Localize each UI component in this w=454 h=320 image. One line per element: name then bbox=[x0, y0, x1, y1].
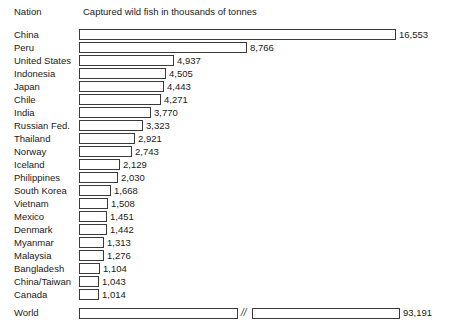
chart-header: Nation Captured wild fish in thousands o… bbox=[0, 6, 454, 22]
bar-row: United States4,937 bbox=[0, 54, 454, 67]
bar-label: Thailand bbox=[14, 132, 50, 145]
bar-row-world: World // 93,191 bbox=[0, 305, 454, 320]
bar-row: Malaysia1,276 bbox=[0, 249, 454, 262]
bar-label: Canada bbox=[14, 288, 47, 301]
bar-label: China bbox=[14, 28, 39, 41]
bar-label: Japan bbox=[14, 80, 40, 93]
bar-row: Iceland2,129 bbox=[0, 158, 454, 171]
bar bbox=[79, 120, 143, 131]
chart-plot-area: China16,553Peru8,766United States4,937In… bbox=[0, 28, 454, 320]
bar-label: South Korea bbox=[14, 184, 67, 197]
bar bbox=[79, 198, 108, 209]
bar-value: 16,553 bbox=[399, 28, 428, 41]
bar-label: Iceland bbox=[14, 158, 45, 171]
bar-value: 4,443 bbox=[167, 80, 191, 93]
bar-label: Peru bbox=[14, 41, 34, 54]
bar-label: Philippines bbox=[14, 171, 60, 184]
bar-row: China/Taiwan1,043 bbox=[0, 275, 454, 288]
bar-label: Russian Fed. bbox=[14, 119, 70, 132]
bar-world-segment-left bbox=[79, 308, 238, 319]
bar-label: Indonesia bbox=[14, 67, 55, 80]
bar-world-segment-right bbox=[252, 308, 400, 319]
bar-value: 3,770 bbox=[154, 106, 178, 119]
bar-value: 2,921 bbox=[138, 132, 162, 145]
bar-row: Philippines2,030 bbox=[0, 171, 454, 184]
bar-row: Indonesia4,505 bbox=[0, 67, 454, 80]
bar-label: China/Taiwan bbox=[14, 275, 71, 288]
bar-label: Bangladesh bbox=[14, 262, 64, 275]
bar bbox=[79, 276, 99, 287]
bar bbox=[79, 263, 100, 274]
bar bbox=[79, 172, 118, 183]
bar-row: Myanmar1,313 bbox=[0, 236, 454, 249]
bar-label: Myanmar bbox=[14, 236, 54, 249]
bar-row: Japan4,443 bbox=[0, 80, 454, 93]
bar-value: 4,271 bbox=[164, 93, 188, 106]
bar bbox=[79, 185, 111, 196]
bar-value-world: 93,191 bbox=[403, 306, 432, 319]
bar-value: 1,043 bbox=[102, 275, 126, 288]
bar-row: Bangladesh1,104 bbox=[0, 262, 454, 275]
bar-label: India bbox=[14, 106, 35, 119]
bar bbox=[79, 289, 99, 300]
bar-value: 8,766 bbox=[250, 41, 274, 54]
column-header-nation: Nation bbox=[14, 6, 41, 18]
bar-row: India3,770 bbox=[0, 106, 454, 119]
bar-row: Vietnam1,508 bbox=[0, 197, 454, 210]
bar-value: 4,505 bbox=[169, 67, 193, 80]
bar-row: Peru8,766 bbox=[0, 41, 454, 54]
bar-row: Norway2,743 bbox=[0, 145, 454, 158]
bar bbox=[79, 159, 120, 170]
bar-label: Norway bbox=[14, 145, 46, 158]
bar-row: China16,553 bbox=[0, 28, 454, 41]
bar-label: United States bbox=[14, 54, 71, 67]
bar bbox=[79, 224, 107, 235]
bar-label: Mexico bbox=[14, 210, 44, 223]
bar-value: 1,313 bbox=[107, 236, 131, 249]
axis-break-icon: // bbox=[240, 305, 248, 320]
bar-value: 1,104 bbox=[103, 262, 127, 275]
chart-title: Captured wild fish in thousands of tonne… bbox=[83, 6, 257, 18]
bar bbox=[79, 29, 396, 40]
bar bbox=[79, 55, 174, 66]
bar-value: 3,323 bbox=[146, 119, 170, 132]
bar-row: Canada1,014 bbox=[0, 288, 454, 301]
bar bbox=[79, 250, 104, 261]
bar bbox=[79, 133, 135, 144]
bar bbox=[79, 68, 166, 79]
bar-label: Malaysia bbox=[14, 249, 52, 262]
bar-row: Denmark1,442 bbox=[0, 223, 454, 236]
bar bbox=[79, 94, 161, 105]
bar-row: Mexico1,451 bbox=[0, 210, 454, 223]
bar-value: 1,451 bbox=[110, 210, 134, 223]
bar bbox=[79, 81, 164, 92]
bar-label: Denmark bbox=[14, 223, 53, 236]
bar-row: South Korea1,668 bbox=[0, 184, 454, 197]
bar-label: Vietnam bbox=[14, 197, 49, 210]
bar-value: 1,508 bbox=[111, 197, 135, 210]
bar-value: 1,014 bbox=[102, 288, 126, 301]
bar-value: 4,937 bbox=[177, 54, 201, 67]
bar-value: 1,276 bbox=[107, 249, 131, 262]
bar bbox=[79, 237, 104, 248]
bar-value: 1,668 bbox=[114, 184, 138, 197]
bar-row: Thailand2,921 bbox=[0, 132, 454, 145]
bar bbox=[79, 211, 107, 222]
bar-row: Chile4,271 bbox=[0, 93, 454, 106]
bar-value: 1,442 bbox=[110, 223, 134, 236]
bar bbox=[79, 107, 151, 118]
bar-row: Russian Fed.3,323 bbox=[0, 119, 454, 132]
bar-label: Chile bbox=[14, 93, 36, 106]
bar-value: 2,030 bbox=[121, 171, 145, 184]
bar-value: 2,743 bbox=[135, 145, 159, 158]
bar-label-world: World bbox=[14, 306, 39, 319]
bar bbox=[79, 42, 247, 53]
bar bbox=[79, 146, 132, 157]
bar-rows: China16,553Peru8,766United States4,937In… bbox=[0, 28, 454, 301]
bar-value: 2,129 bbox=[123, 158, 147, 171]
